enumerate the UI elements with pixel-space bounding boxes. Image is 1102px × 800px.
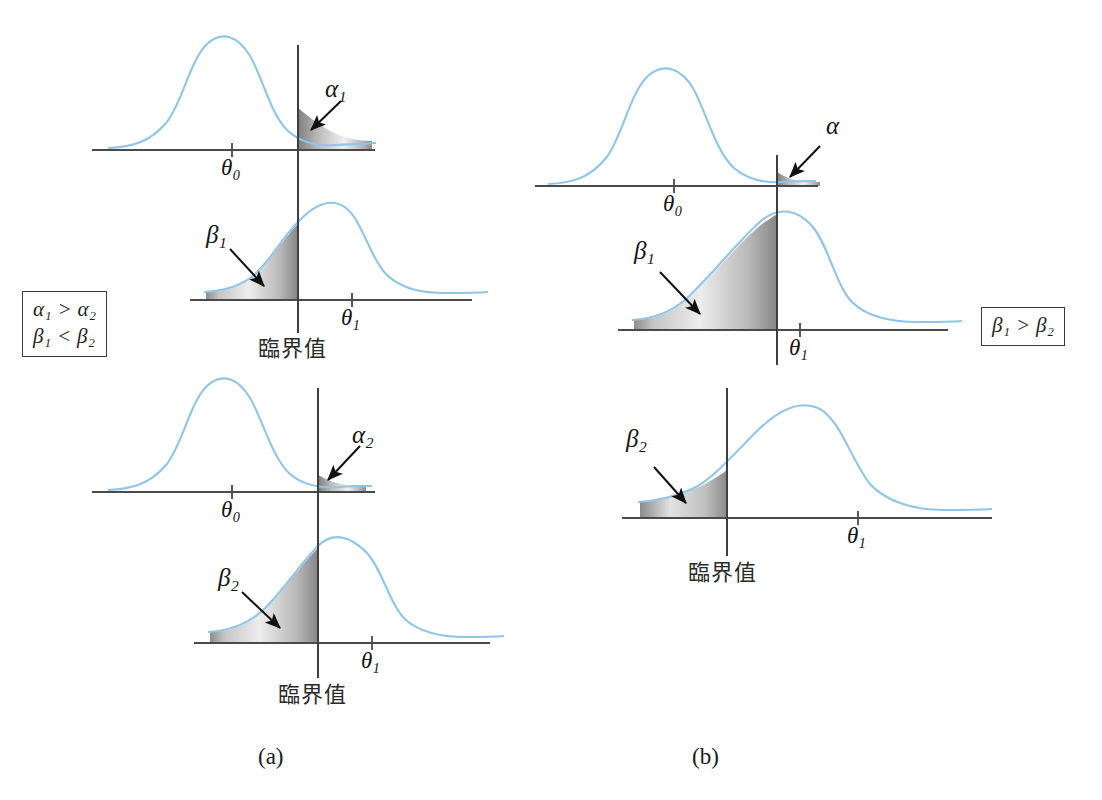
theta0-label-a-bottom: θ0 <box>221 498 240 524</box>
panel-b-bottom-block <box>622 388 992 556</box>
legend-a-row-1: α₁ > α₂ <box>33 297 96 322</box>
alpha1-label: α1 <box>325 76 346 104</box>
beta2-b-shaded-region <box>640 470 727 518</box>
critical-value-label-b: 臨界值 <box>688 562 757 584</box>
alt-distribution-curve-a-top <box>204 203 488 293</box>
caption-panel-a: (a) <box>258 745 284 768</box>
panel-a-bottom-block <box>92 378 504 678</box>
theta1-label-a-bottom: θ1 <box>361 649 380 675</box>
alpha2-shaded-region <box>318 475 366 492</box>
panel-b-top-block <box>535 68 962 365</box>
legend-box-b: β₁ > β₂ <box>981 307 1065 346</box>
caption-panel-b: (b) <box>692 745 719 768</box>
theta1-label-a-top: θ1 <box>341 306 360 332</box>
beta2-label: β2 <box>218 565 239 593</box>
theta1-label-b-bottom: θ1 <box>847 524 866 550</box>
theta0-label-b-top: θ0 <box>663 192 682 218</box>
figure-root: α1 θ0 β1 θ1 臨界值 α2 θ0 β2 θ1 臨界值 α θ0 β1 … <box>0 0 1102 800</box>
null-distribution-curve-b-top <box>548 68 816 184</box>
alpha-shaded-region <box>777 172 820 186</box>
alpha1-leader-arrow <box>311 101 341 130</box>
alpha2-leader-arrow <box>328 446 360 480</box>
null-distribution-curve-a-bottom <box>108 378 372 490</box>
beta1-label: β1 <box>206 222 227 250</box>
alpha-leader-arrow <box>790 146 820 177</box>
legend-a-row-2: β₁ < β₂ <box>33 324 96 349</box>
legend-box-a: α₁ > α₂ β₁ < β₂ <box>22 291 107 357</box>
figure-canvas <box>0 0 1102 800</box>
alpha2-label: α2 <box>352 422 373 450</box>
beta1-label-b: β1 <box>634 238 655 266</box>
theta0-label-a-top: θ0 <box>221 156 240 182</box>
alpha-label-b: α <box>826 113 840 141</box>
beta1-b-shaded-region <box>634 214 777 330</box>
panel-a-top-block <box>92 36 488 333</box>
beta2-label-b: β2 <box>626 426 647 454</box>
theta1-label-b-top: θ1 <box>789 336 808 362</box>
critical-value-label-a-bottom: 臨界值 <box>278 684 347 706</box>
legend-b-row-1: β₁ > β₂ <box>992 313 1054 338</box>
critical-value-label-a-top: 臨界值 <box>258 338 327 360</box>
